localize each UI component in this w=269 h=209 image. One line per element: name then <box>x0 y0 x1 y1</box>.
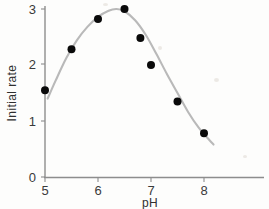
x-axis <box>44 177 264 182</box>
x-axis-title: pH <box>142 196 158 209</box>
data-point <box>200 129 208 137</box>
data-point <box>174 97 182 105</box>
chart-container: 3 2 1 0 5 6 7 8 pH Initial rate <box>0 0 269 209</box>
x-tick-label-8: 8 <box>200 183 207 198</box>
y-tick-labels: 3 2 1 0 <box>29 2 36 185</box>
data-point <box>68 45 76 53</box>
data-point <box>41 86 49 94</box>
y-tick-label-2: 2 <box>29 57 36 72</box>
fit-curve <box>48 9 214 145</box>
x-tick-label-5: 5 <box>41 183 48 198</box>
ph-activity-plot: 3 2 1 0 5 6 7 8 pH Initial rate <box>0 0 269 209</box>
y-tick-label-3: 3 <box>29 2 36 17</box>
y-axis-title: Initial rate <box>5 65 19 122</box>
y-tick-label-0: 0 <box>29 170 36 185</box>
data-markers <box>41 5 208 137</box>
x-tick-labels: 5 6 7 8 <box>41 183 207 198</box>
data-point <box>136 34 144 42</box>
x-tick-label-6: 6 <box>94 183 101 198</box>
data-point <box>121 5 129 13</box>
y-tick-label-1: 1 <box>29 114 36 129</box>
data-point <box>147 61 155 69</box>
data-point <box>94 15 102 23</box>
